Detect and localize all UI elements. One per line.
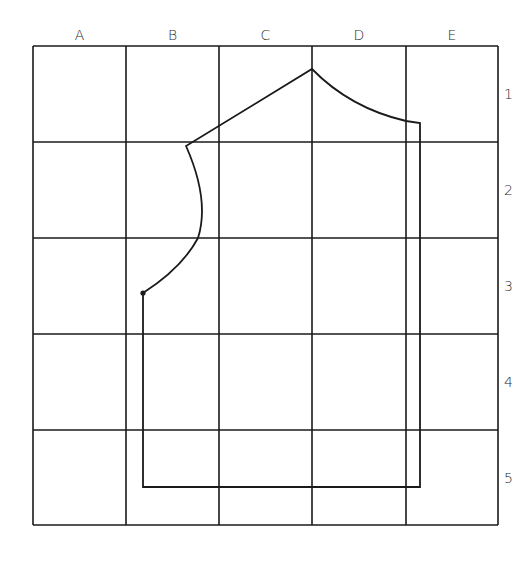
row-label: 1 [504, 86, 513, 102]
row-label: 5 [504, 470, 513, 486]
armhole-point-marker [140, 290, 145, 295]
row-label: 4 [504, 374, 513, 390]
row-label: 2 [504, 182, 513, 198]
column-label: A [75, 27, 85, 43]
bodice-outline [143, 69, 420, 487]
column-label: D [354, 27, 365, 43]
pattern-grid-diagram: ABCDE 12345 [0, 0, 530, 562]
column-label: B [168, 27, 177, 43]
grid-lines [33, 46, 498, 525]
column-label: C [261, 27, 271, 43]
row-label: 3 [504, 278, 513, 294]
row-labels: 12345 [504, 86, 513, 486]
column-label: E [448, 27, 457, 43]
column-labels: ABCDE [75, 27, 457, 43]
